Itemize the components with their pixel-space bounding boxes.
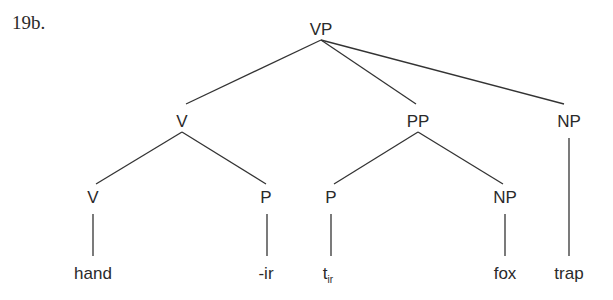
- syntax-tree: VP V PP NP V P P NP hand -ir tir fox tra…: [0, 0, 613, 300]
- edge-v-p: [182, 132, 266, 184]
- trace-subscript: ir: [328, 274, 334, 285]
- edge-vp-np: [321, 40, 564, 104]
- leaf-trap: trap: [554, 264, 583, 283]
- edge-pp-p: [334, 132, 418, 184]
- edge-pp-np: [418, 132, 503, 184]
- node-p-left: P: [260, 188, 271, 207]
- edge-vp-pp: [321, 40, 416, 104]
- node-pp: PP: [407, 112, 430, 131]
- node-vp: VP: [310, 20, 333, 39]
- leaf-ir: -ir: [258, 264, 273, 283]
- edge-v-v: [96, 132, 182, 184]
- node-np-lower: NP: [493, 188, 517, 207]
- leaf-hand: hand: [74, 264, 112, 283]
- node-np-upper: NP: [557, 112, 581, 131]
- leaf-trace: tir: [323, 264, 334, 285]
- edge-vp-v: [186, 40, 321, 104]
- leaf-fox: fox: [494, 264, 517, 283]
- node-v-lower: V: [87, 188, 99, 207]
- node-p-right: P: [325, 188, 336, 207]
- node-v-upper: V: [176, 112, 188, 131]
